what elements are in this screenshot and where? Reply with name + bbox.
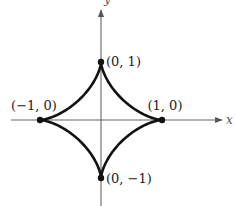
point-label: (0, −1) bbox=[106, 171, 152, 186]
astroid-plot: x y (0, 1)(1, 0)(−1, 0)(0, −1) bbox=[0, 0, 236, 206]
point-marker bbox=[98, 175, 104, 181]
point-marker bbox=[98, 59, 104, 65]
point-marker bbox=[159, 117, 165, 123]
point-label: (−1, 0) bbox=[11, 98, 57, 113]
point-marker bbox=[37, 117, 43, 123]
point-label: (1, 0) bbox=[148, 98, 183, 113]
y-axis-label: y bbox=[103, 0, 111, 6]
point-label: (0, 1) bbox=[106, 54, 141, 69]
x-axis-label: x bbox=[226, 113, 233, 127]
